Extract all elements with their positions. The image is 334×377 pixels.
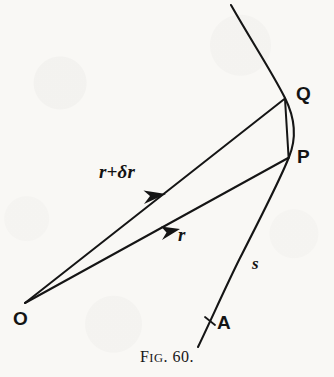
figure-container: O Q P A r+δr r s FIG. 60. <box>0 0 334 377</box>
label-arc-length-s: s <box>252 255 259 272</box>
label-origin: O <box>13 309 28 328</box>
label-point-p: P <box>297 147 310 166</box>
label-point-q: Q <box>296 84 311 103</box>
figure-drawing <box>0 0 334 377</box>
label-vector-r-delta-r: r+δr <box>99 162 135 181</box>
caption-smallcaps: IG <box>149 351 163 365</box>
caption-number: . 60. <box>164 348 195 365</box>
plane-curve <box>198 5 294 347</box>
chord-q-p <box>285 99 289 158</box>
caption-lead: F <box>140 348 149 365</box>
vector-r-delta-line <box>25 99 285 304</box>
figure-caption: FIG. 60. <box>0 348 334 366</box>
label-vector-r: r <box>178 225 186 244</box>
label-point-a: A <box>217 313 231 332</box>
vector-r-line <box>25 158 289 304</box>
